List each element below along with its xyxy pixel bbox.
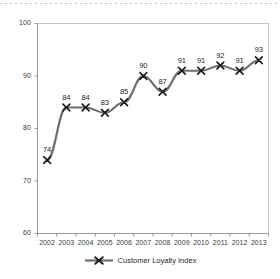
data-point-label: 93 <box>250 45 268 54</box>
data-point-label: 92 <box>211 51 229 60</box>
data-point-label: 87 <box>154 77 172 86</box>
data-point-label: 84 <box>57 93 75 102</box>
legend-marker-icon <box>84 255 114 266</box>
y-tick-label: 60 <box>9 229 31 236</box>
legend-label-customer-loyalty-index: Customer Loyalty Index <box>118 256 197 265</box>
data-point-label: 91 <box>173 56 191 65</box>
chart-canvas <box>0 0 280 279</box>
data-point-label: 90 <box>134 61 152 70</box>
y-tick-label: 80 <box>9 124 31 131</box>
y-tick-label: 70 <box>9 177 31 184</box>
chart-container: 10090807060 2002200320042005200620072008… <box>0 0 280 279</box>
data-point-label: 91 <box>231 56 249 65</box>
x-tick-label: 2013 <box>248 239 270 246</box>
chart-legend: Customer Loyalty Index <box>0 255 280 266</box>
data-point-label: 74 <box>38 145 56 154</box>
data-point-label: 83 <box>96 98 114 107</box>
data-point-label: 85 <box>115 87 133 96</box>
y-tick-label: 100 <box>9 19 31 26</box>
data-point-label: 91 <box>192 56 210 65</box>
data-point-label: 84 <box>77 93 95 102</box>
y-tick-label: 90 <box>9 72 31 79</box>
